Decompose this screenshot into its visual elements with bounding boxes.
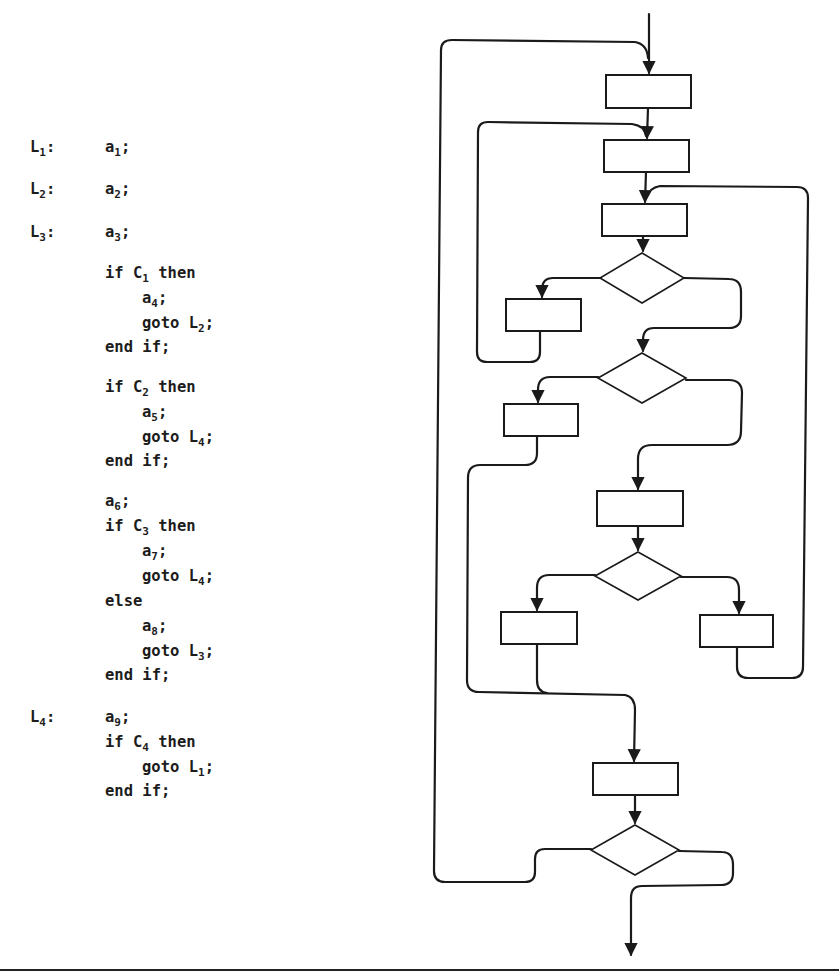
edge-a1-a2 xyxy=(647,108,648,138)
edge-C3-false xyxy=(681,577,739,613)
flowchart xyxy=(0,0,839,977)
decision-diamond-C2 xyxy=(598,353,686,403)
edge-a5-to-L4 xyxy=(467,436,635,761)
edge-C3-true xyxy=(537,575,595,610)
process-box-a3 xyxy=(602,204,687,236)
loop-goto-L3 xyxy=(646,186,808,678)
process-box-a8 xyxy=(700,615,773,647)
footer-rule xyxy=(0,969,839,971)
edge-a7-to-L4 xyxy=(537,644,547,693)
process-box-a7 xyxy=(501,612,577,644)
process-box-a4 xyxy=(506,299,581,331)
decision-diamond-C4 xyxy=(591,825,679,875)
process-box-a2 xyxy=(604,140,689,172)
decision-diamond-C1 xyxy=(600,253,684,303)
edge-C1-true xyxy=(542,278,600,297)
process-box-a1 xyxy=(606,75,691,108)
process-box-a9 xyxy=(593,763,678,795)
decision-diamond-C3 xyxy=(595,552,681,600)
process-box-a6 xyxy=(597,491,683,526)
edge-C2-true xyxy=(538,377,598,402)
process-box-a5 xyxy=(504,404,578,436)
